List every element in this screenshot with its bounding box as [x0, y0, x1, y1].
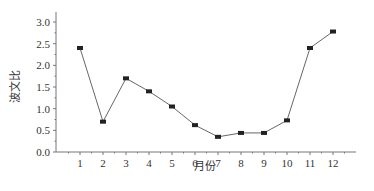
x-tick-label: 7 [215, 157, 221, 169]
data-point-marker [100, 120, 106, 124]
y-tick-label: 0.5 [36, 124, 50, 136]
data-point-marker [192, 123, 198, 127]
x-tick-label: 10 [282, 157, 294, 169]
series-line [80, 32, 333, 137]
data-point-marker [284, 118, 290, 122]
y-axis: 0.00.51.01.52.02.53.0 [36, 12, 56, 158]
x-axis-label: 月份 [194, 160, 216, 173]
data-point-marker [123, 76, 129, 80]
y-tick-label: 1.5 [36, 81, 50, 93]
x-tick-label: 8 [238, 157, 244, 169]
y-tick-label: 2.5 [36, 38, 50, 50]
x-tick-label: 4 [146, 157, 152, 169]
y-tick-label: 2.0 [36, 59, 50, 71]
data-point-marker [146, 89, 152, 93]
y-tick-label: 3.0 [36, 16, 50, 28]
x-tick-label: 5 [169, 157, 175, 169]
y-tick-label: 0.0 [36, 146, 50, 158]
y-tick-label: 1.0 [36, 103, 50, 115]
data-point-marker [77, 46, 83, 50]
data-series [77, 30, 336, 139]
data-point-marker [215, 135, 221, 139]
x-tick-label: 9 [261, 157, 267, 169]
data-point-marker [238, 131, 244, 135]
x-tick-label: 3 [123, 157, 129, 169]
line-chart: 0.00.51.01.52.02.53.0 123456789101112 月份… [0, 0, 374, 191]
x-tick-label: 2 [100, 157, 106, 169]
data-point-marker [261, 131, 267, 135]
x-tick-label: 12 [328, 157, 339, 169]
data-point-marker [307, 46, 313, 50]
data-point-marker [169, 105, 175, 109]
x-tick-label: 1 [77, 157, 83, 169]
x-tick-label: 11 [305, 157, 316, 169]
y-axis-label: 波文比 [8, 70, 22, 103]
data-point-marker [330, 30, 336, 34]
